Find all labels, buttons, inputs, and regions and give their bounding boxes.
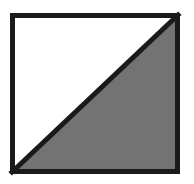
half-shaded-square-svg [0,0,194,184]
figure-canvas [0,0,194,184]
